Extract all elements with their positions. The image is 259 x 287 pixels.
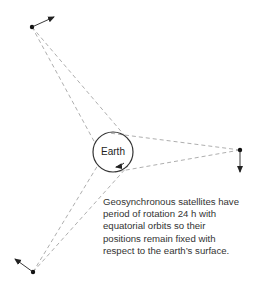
velocity-arrow-icon bbox=[15, 259, 33, 272]
earth-label: Earth bbox=[101, 146, 125, 157]
caption-line: respect to the earth’s surface. bbox=[103, 245, 259, 257]
caption-line: period of rotation 24 h with bbox=[103, 208, 259, 220]
earth: Earth bbox=[93, 132, 133, 172]
satellite-bottom bbox=[15, 259, 35, 274]
satellite-top bbox=[30, 17, 54, 29]
satellite-right bbox=[238, 148, 242, 172]
caption-line: Geosynchronous satellites have bbox=[103, 196, 259, 208]
velocity-arrow-icon bbox=[32, 17, 54, 27]
rotation-arrow-icon bbox=[116, 163, 124, 167]
caption-line: equatorial orbits so their bbox=[103, 220, 259, 232]
caption: Geosynchronous satellites have period of… bbox=[103, 196, 259, 257]
caption-line: positions remain fixed with bbox=[103, 233, 259, 245]
